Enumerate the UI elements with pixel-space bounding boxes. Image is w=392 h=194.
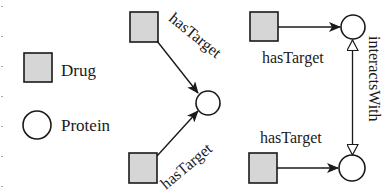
edge-label-interacts-with: interactsWith <box>366 36 383 122</box>
legend: Drug Protein <box>23 53 111 139</box>
legend-drug-square-icon <box>24 53 52 82</box>
edge-label-has-target-bottom-right: hasTarget <box>260 129 322 147</box>
protein-node-top-right <box>341 15 365 39</box>
protein-node-bottom-right <box>339 155 365 181</box>
legend-protein-label: Protein <box>61 116 111 135</box>
pattern-right: hasTarget hasTarget interactsWith <box>249 12 383 183</box>
protein-node-center <box>196 91 220 115</box>
drug-node-top-left <box>130 12 158 42</box>
edge-has-target-upper <box>157 41 198 93</box>
drug-node-bottom-left <box>129 153 157 183</box>
legend-drug-label: Drug <box>61 61 96 80</box>
edge-label-has-target-upper: hasTarget <box>165 9 225 62</box>
drug-node-top-right <box>250 12 278 41</box>
drug-node-bottom-right <box>249 153 277 183</box>
pattern-left: hasTarget hasTarget <box>129 9 225 193</box>
edge-label-has-target-lower: hasTarget <box>157 139 216 193</box>
drug-protein-diagram: Drug Protein hasTarget hasTarget hasTarg… <box>0 0 392 194</box>
legend-protein-circle-icon <box>23 111 51 139</box>
edge-label-has-target-top-right: hasTarget <box>262 49 324 67</box>
